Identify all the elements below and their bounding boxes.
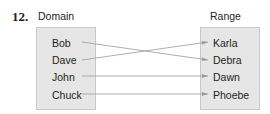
mapping-arrows <box>0 0 270 114</box>
